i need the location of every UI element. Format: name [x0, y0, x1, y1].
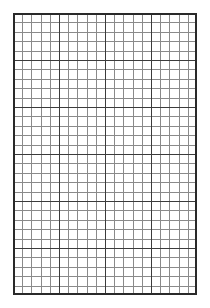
grid-lines [13, 13, 197, 295]
graph-paper-sheet: graph-paper [0, 0, 210, 308]
grid-area [13, 13, 197, 295]
